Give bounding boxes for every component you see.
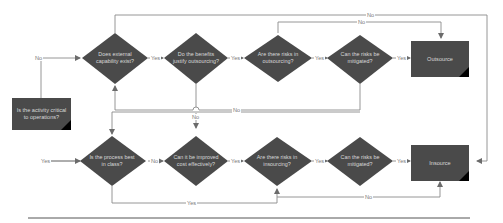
decision-top-2[interactable]: Do the benefits justify outsourcing? <box>171 46 221 70</box>
start-node[interactable]: Is the activity critical to operations? <box>12 98 71 130</box>
edge-label-bot-d1-yes: Yes <box>186 200 197 206</box>
corner-accent <box>459 171 469 181</box>
edge-label-bot-d3-yes: Yes <box>314 158 325 164</box>
decision-top-4[interactable]: Can the risks be mitigated? <box>335 47 385 69</box>
decision-bottom-2-label: Can it be improved cost effectively? <box>168 154 224 167</box>
edge-label-top-d1-yes: Yes <box>150 55 161 61</box>
decision-bottom-3[interactable]: Are there risks in insourcing? <box>252 150 302 172</box>
corner-accent <box>61 120 71 130</box>
edge-label-top-d2-no: No <box>191 114 200 120</box>
decision-bottom-4[interactable]: Can the risks be mitigated? <box>335 150 385 172</box>
edge-label-start-yes: Yes <box>40 158 51 164</box>
edge-label-mid-no: No <box>232 107 241 113</box>
decision-top-2-label: Do the benefits justify outsourcing? <box>171 51 221 64</box>
connectors-layer <box>0 0 503 223</box>
outcome-outsource-label: Outsource <box>427 56 453 63</box>
outcome-outsource[interactable]: Outsource <box>411 41 469 77</box>
edge-label-top-d1-no: No <box>366 12 375 18</box>
edge-label-top-d3-no: No <box>357 19 366 25</box>
decision-bottom-1[interactable]: Is the process best in class? <box>88 150 136 172</box>
decision-top-3-label: Are there risks in outsourcing? <box>252 51 304 64</box>
decision-bottom-1-label: Is the process best in class? <box>88 154 136 167</box>
decision-top-1[interactable]: Does external capability exist? <box>90 46 140 70</box>
edge-label-start-no: No <box>34 55 43 61</box>
decision-top-1-label: Does external capability exist? <box>90 51 140 64</box>
edge-label-bot-d4-yes: Yes <box>396 158 407 164</box>
edge-label-bot-d1-no: No <box>150 158 159 164</box>
decision-bottom-2[interactable]: Can it be improved cost effectively? <box>168 150 224 172</box>
decision-bottom-4-label: Can the risks be mitigated? <box>335 154 385 167</box>
decision-top-4-label: Can the risks be mitigated? <box>335 51 385 64</box>
decision-bottom-3-label: Are there risks in insourcing? <box>252 154 302 167</box>
outcome-insource-label: Insource <box>429 160 450 167</box>
flowchart-canvas: Is the activity critical to operations? … <box>0 0 503 223</box>
edge-label-top-d2-yes: Yes <box>230 55 241 61</box>
edge-label-bot-d2-yes: Yes <box>230 158 241 164</box>
outcome-insource[interactable]: Insource <box>411 145 469 181</box>
decision-top-3[interactable]: Are there risks in outsourcing? <box>252 47 304 69</box>
edge-label-top-d4-yes: Yes <box>396 55 407 61</box>
edge-label-top-d3-yes: Yes <box>314 55 325 61</box>
edge-label-bot-d4-no: No <box>364 194 373 200</box>
start-node-label: Is the activity critical to operations? <box>16 107 67 121</box>
corner-accent <box>459 67 469 77</box>
